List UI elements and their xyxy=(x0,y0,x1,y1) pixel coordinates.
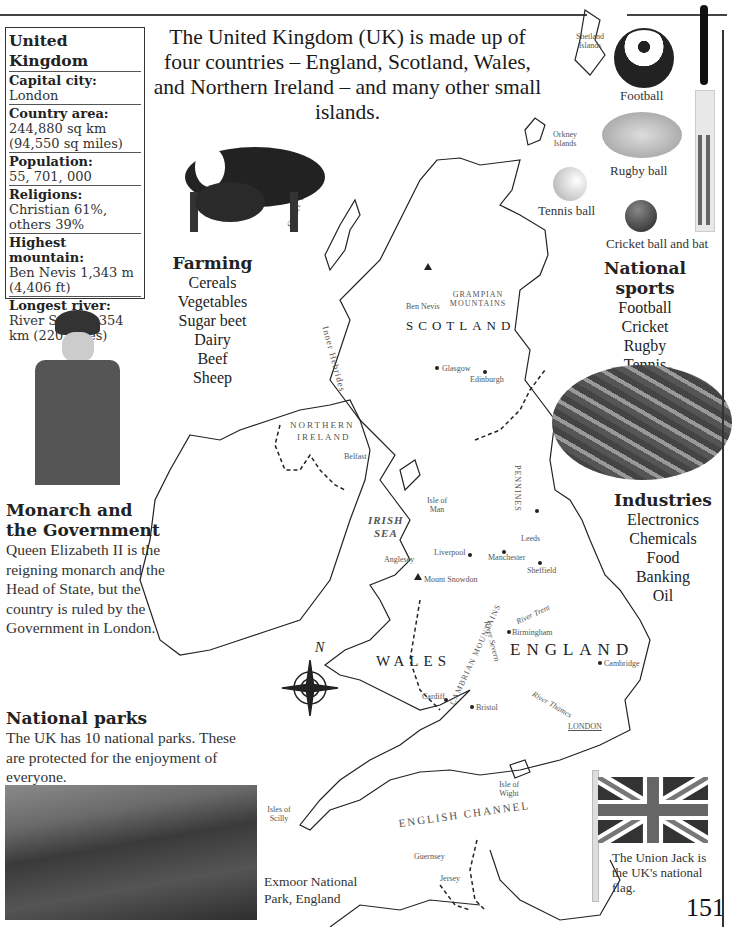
sea-irish-1: IRISH xyxy=(368,514,404,526)
label-leeds: Leeds xyxy=(521,534,540,543)
union-jack-icon xyxy=(598,777,708,843)
industries-section: Industries Electronics Chemicals Food Ba… xyxy=(608,490,718,605)
label-edinburgh: Edinburgh xyxy=(470,375,504,384)
label-guernsey: Guernsey xyxy=(414,852,445,861)
compass-north-label: N xyxy=(315,640,324,656)
industries-item: Banking xyxy=(608,567,718,586)
industries-item: Electronics xyxy=(608,510,718,529)
label-london: LONDON xyxy=(568,722,602,731)
label-orkney: Orkney Islands xyxy=(545,130,585,148)
cricket-ball-icon xyxy=(625,200,657,232)
sports-item: Rugby xyxy=(580,336,710,355)
farming-item: Vegetables xyxy=(170,292,255,311)
farming-item: Sugar beet xyxy=(170,311,255,330)
farming-heading: Farming xyxy=(170,253,255,273)
label-jersey: Jersey xyxy=(440,874,460,883)
sea-irish-2: SEA xyxy=(374,527,398,539)
label-pennines: PENNINES xyxy=(513,465,522,512)
label-ben-nevis: Ben Nevis xyxy=(406,302,440,311)
label-grampian: GRAMPIAN MOUNTAINS xyxy=(443,290,513,308)
industries-item: Chemicals xyxy=(608,529,718,548)
cow-photo xyxy=(170,132,335,242)
label-bristol: Bristol xyxy=(476,703,498,712)
oil-refinery-photo xyxy=(552,365,732,480)
label-cambridge: Cambridge xyxy=(604,659,640,668)
region-northern-ireland-1: NORTHERN xyxy=(290,420,354,430)
label-cardiff: Cardiff xyxy=(422,692,445,701)
industries-item: Food xyxy=(608,548,718,567)
farming-section: Farming Cereals Vegetables Sugar beet Da… xyxy=(170,253,255,387)
caption-flag: The Union Jack is the UK's national flag… xyxy=(612,850,712,895)
tennis-ball-icon xyxy=(553,167,587,201)
farming-item: Sheep xyxy=(170,368,255,387)
rugby-ball-icon xyxy=(602,112,682,158)
region-northern-ireland-2: IRELAND xyxy=(297,432,351,442)
farming-item: Cereals xyxy=(170,273,255,292)
industries-heading: Industries xyxy=(608,490,718,510)
caption-exmoor: Exmoor National Park, England xyxy=(264,873,374,907)
parks-heading: National parks xyxy=(6,708,256,728)
caption-rugby: Rugby ball xyxy=(610,163,667,179)
caption-tennis: Tennis ball xyxy=(538,203,595,219)
queen-photo xyxy=(30,310,125,485)
page-edge-rule xyxy=(722,30,724,927)
label-glasgow: Glasgow xyxy=(442,364,470,373)
caption-football: Football xyxy=(620,88,663,104)
label-isle-of-wight: Isle of Wight xyxy=(494,780,524,798)
page-number: 151 xyxy=(686,893,725,923)
label-belfast: Belfast xyxy=(344,452,367,461)
farming-item: Beef xyxy=(170,349,255,368)
sports-section: National sports Football Cricket Rugby T… xyxy=(580,258,710,374)
sports-heading: National sports xyxy=(580,258,710,298)
cricket-bat-icon xyxy=(693,5,715,235)
parks-body: The UK has 10 national parks. These are … xyxy=(6,728,256,787)
caption-cricket: Cricket ball and bat xyxy=(606,236,708,252)
football-icon xyxy=(614,28,674,88)
label-snowdon: Mount Snowdon xyxy=(424,575,478,584)
region-wales: WALES xyxy=(376,653,451,670)
label-birmingham: Birmingham xyxy=(512,628,552,637)
label-isles-of-scilly: Isles of Scilly xyxy=(262,805,296,823)
label-sheffield: Sheffield xyxy=(527,566,556,575)
sports-item: Football xyxy=(580,298,710,317)
exmoor-photo xyxy=(5,785,257,920)
sports-item: Cricket xyxy=(580,317,710,336)
monarch-heading: Monarch and the Government xyxy=(6,500,166,540)
monarch-section: Monarch and the Government Queen Elizabe… xyxy=(6,500,166,638)
monarch-body: Queen Elizabeth II is the reigning monar… xyxy=(6,540,166,638)
label-isle-of-man: Isle of Man xyxy=(422,496,452,514)
label-manchester: Manchester xyxy=(488,553,525,562)
region-england: ENGLAND xyxy=(510,640,634,660)
industries-item: Oil xyxy=(608,586,718,605)
label-anglesey: Anglesey xyxy=(384,555,414,564)
parks-section: National parks The UK has 10 national pa… xyxy=(6,708,256,787)
farming-item: Dairy xyxy=(170,330,255,349)
region-scotland: SCOTLAND xyxy=(406,318,515,334)
label-liverpool: Liverpool xyxy=(434,548,466,557)
label-shetland: Shetland Islands xyxy=(570,32,610,50)
